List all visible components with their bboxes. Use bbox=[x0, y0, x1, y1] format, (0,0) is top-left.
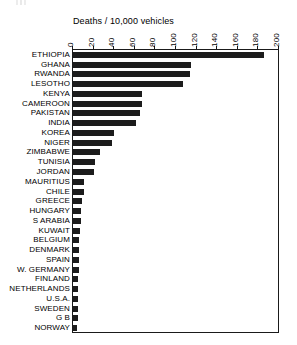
bar-row bbox=[72, 91, 279, 97]
category-label: SWEDEN bbox=[34, 305, 70, 313]
bar-row bbox=[72, 286, 279, 292]
category-label: NETHERLANDS bbox=[9, 285, 70, 293]
x-axis-ticks: 020406080100120140160180200 bbox=[72, 28, 279, 50]
x-axis-tick-label: 140 bbox=[210, 33, 219, 47]
bar-row bbox=[72, 198, 279, 204]
bar bbox=[73, 276, 78, 282]
bar-row bbox=[72, 130, 279, 136]
x-axis-tick-label: 120 bbox=[190, 33, 199, 47]
category-label: G B bbox=[56, 314, 70, 322]
category-label: S ARABIA bbox=[33, 217, 70, 225]
category-label: PAKISTAN bbox=[31, 109, 70, 117]
bar bbox=[73, 71, 190, 77]
category-label: KUWAIT bbox=[39, 227, 70, 235]
bar-chart: Deaths / 10,000 vehicles 020406080100120… bbox=[0, 0, 297, 345]
bar bbox=[73, 257, 79, 263]
category-label: LESOTHO bbox=[31, 80, 70, 88]
scan-artifact bbox=[16, 0, 28, 5]
category-label: ETHIOPIA bbox=[32, 51, 70, 59]
bar-row bbox=[72, 267, 279, 273]
bar-row bbox=[72, 276, 279, 282]
bar-row bbox=[72, 71, 279, 77]
bar-row bbox=[72, 257, 279, 263]
category-label: TUNISIA bbox=[38, 158, 70, 166]
category-label: NIGER bbox=[44, 139, 70, 147]
category-label: FINLAND bbox=[35, 275, 70, 283]
x-axis-tick-label: 20 bbox=[87, 38, 96, 47]
x-axis-tick-label: 200 bbox=[272, 33, 281, 47]
bar bbox=[73, 315, 78, 321]
bar bbox=[73, 159, 95, 165]
bar bbox=[73, 237, 79, 243]
category-label: SPAIN bbox=[46, 256, 70, 264]
bar-row bbox=[72, 228, 279, 234]
bar bbox=[73, 149, 100, 155]
category-label: KENYA bbox=[43, 90, 70, 98]
bar-row bbox=[72, 120, 279, 126]
bar-row bbox=[72, 169, 279, 175]
bar bbox=[73, 228, 80, 234]
bar bbox=[73, 130, 114, 136]
chart-title: Deaths / 10,000 vehicles bbox=[73, 16, 174, 26]
bar bbox=[73, 198, 82, 204]
plot-bottom-spine bbox=[72, 332, 279, 333]
category-label: GREECE bbox=[36, 197, 70, 205]
bar bbox=[73, 267, 79, 273]
bar bbox=[73, 325, 77, 331]
bar-row bbox=[72, 140, 279, 146]
bar-row bbox=[72, 149, 279, 155]
bar bbox=[73, 306, 78, 312]
bar bbox=[73, 218, 81, 224]
category-label: MAURITIUS bbox=[25, 178, 70, 186]
category-label: JORDAN bbox=[37, 168, 71, 176]
bar-row bbox=[72, 306, 279, 312]
x-axis-tick-label: 60 bbox=[128, 38, 137, 47]
bar-row bbox=[72, 296, 279, 302]
bar-row bbox=[72, 101, 279, 107]
category-label: U.S.A. bbox=[46, 295, 70, 303]
bar-row bbox=[72, 179, 279, 185]
bar bbox=[73, 52, 264, 58]
x-axis-tick-label: 40 bbox=[107, 38, 116, 47]
bar-row bbox=[72, 159, 279, 165]
bar bbox=[73, 140, 112, 146]
bar-row bbox=[72, 208, 279, 214]
bar bbox=[73, 101, 142, 107]
bar bbox=[73, 286, 78, 292]
category-label: RWANDA bbox=[34, 70, 70, 78]
x-axis-tick-label: 80 bbox=[148, 38, 157, 47]
bar-row bbox=[72, 52, 279, 58]
category-label: CAMEROON bbox=[22, 100, 70, 108]
plot-area bbox=[72, 50, 279, 333]
bar-row bbox=[72, 315, 279, 321]
category-label: GHANA bbox=[41, 61, 70, 69]
bar-row bbox=[72, 81, 279, 87]
bar-row bbox=[72, 237, 279, 243]
category-label: NORWAY bbox=[34, 324, 70, 332]
bar bbox=[73, 208, 81, 214]
bar-row bbox=[72, 218, 279, 224]
bar-row bbox=[72, 325, 279, 331]
bar bbox=[73, 110, 140, 116]
category-label: INDIA bbox=[48, 119, 70, 127]
bar bbox=[73, 62, 191, 68]
bar bbox=[73, 189, 84, 195]
x-axis-tick-label: 160 bbox=[231, 33, 240, 47]
x-axis-tick-label: 180 bbox=[251, 33, 260, 47]
bar-row bbox=[72, 62, 279, 68]
x-axis-tick-label: 0 bbox=[66, 42, 75, 47]
bar bbox=[73, 169, 94, 175]
category-label: BELGIUM bbox=[33, 236, 70, 244]
bar bbox=[73, 81, 183, 87]
bar bbox=[73, 91, 142, 97]
bar bbox=[73, 120, 136, 126]
bar bbox=[73, 247, 79, 253]
bar bbox=[73, 179, 84, 185]
bar-row bbox=[72, 247, 279, 253]
category-labels: ETHIOPIAGHANARWANDALESOTHOKENYACAMEROONP… bbox=[0, 50, 70, 333]
category-label: HUNGARY bbox=[29, 207, 70, 215]
category-label: CHILE bbox=[46, 188, 70, 196]
category-label: KOREA bbox=[41, 129, 70, 137]
bar-row bbox=[72, 110, 279, 116]
bar bbox=[73, 296, 78, 302]
